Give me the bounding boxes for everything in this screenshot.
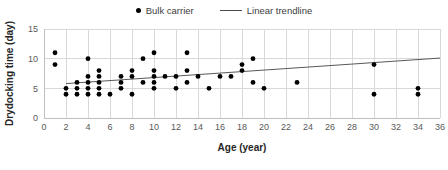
svg-text:16: 16 xyxy=(215,122,225,132)
svg-text:24: 24 xyxy=(303,122,313,132)
svg-text:0: 0 xyxy=(33,113,38,123)
svg-text:34: 34 xyxy=(413,122,423,132)
svg-text:30: 30 xyxy=(369,122,379,132)
svg-text:22: 22 xyxy=(281,122,291,132)
data-points xyxy=(53,50,421,96)
svg-text:6: 6 xyxy=(107,122,112,132)
svg-text:36: 36 xyxy=(435,122,445,132)
svg-text:10: 10 xyxy=(149,122,159,132)
svg-text:20: 20 xyxy=(259,122,269,132)
y-axis-tick-labels: 051015 xyxy=(28,24,38,123)
y-axis-title: Drydocking time (day) xyxy=(4,21,15,126)
svg-text:0: 0 xyxy=(41,122,46,132)
svg-text:15: 15 xyxy=(28,24,38,34)
svg-text:8: 8 xyxy=(129,122,134,132)
scatter-chart: Bulk carrier Linear trendline 051015 024… xyxy=(0,0,448,170)
gridlines xyxy=(44,29,440,118)
svg-text:18: 18 xyxy=(237,122,247,132)
svg-text:14: 14 xyxy=(193,122,203,132)
svg-text:12: 12 xyxy=(171,122,181,132)
x-axis-tick-labels: 024681012141618202224262830323436 xyxy=(41,122,445,132)
x-axis-title: Age (year) xyxy=(218,142,267,153)
svg-text:28: 28 xyxy=(347,122,357,132)
svg-text:2: 2 xyxy=(63,122,68,132)
svg-text:26: 26 xyxy=(325,122,335,132)
trendline xyxy=(66,58,440,84)
svg-text:4: 4 xyxy=(85,122,90,132)
svg-text:32: 32 xyxy=(391,122,401,132)
svg-text:5: 5 xyxy=(33,84,38,94)
svg-text:10: 10 xyxy=(28,54,38,64)
plot-area: 051015 024681012141618202224262830323436… xyxy=(0,0,448,170)
